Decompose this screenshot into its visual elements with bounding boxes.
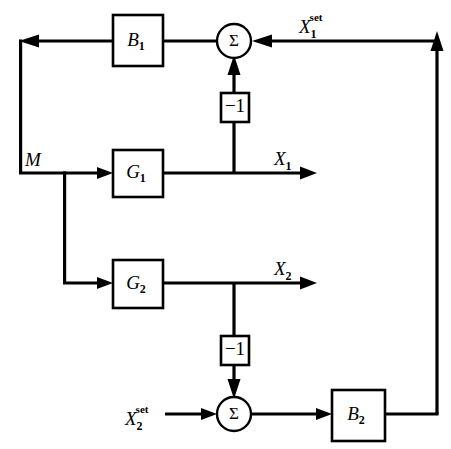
arrowhead-into-sum-bottom	[201, 408, 217, 420]
arrowhead-into-g2	[97, 277, 113, 289]
arrowhead-into-g1	[97, 167, 113, 179]
summing-junction-top-label: Σ	[229, 31, 239, 50]
block-gain-top-label: −1	[225, 95, 245, 116]
arrowhead-into-b2	[316, 408, 332, 420]
block-diagram-canvas: B1 G1 G2 B2 −1 −1 Σ Σ M X1 X2 X1set X2se…	[0, 0, 451, 449]
arrowhead-into-sum-top	[252, 35, 272, 48]
signal-label-x1-set: X1set	[298, 11, 323, 41]
arrowhead-x2-output	[300, 277, 317, 290]
signal-label-m: M	[24, 149, 42, 170]
arrowhead-x1-output	[300, 167, 317, 180]
block-gain-bottom-label: −1	[225, 338, 245, 359]
signal-label-x2-set: X2set	[124, 403, 149, 433]
control-block-diagram: B1 G1 G2 B2 −1 −1 Σ Σ M X1 X2 X1set X2se…	[0, 0, 451, 449]
summing-junction-bottom-label: Σ	[229, 404, 239, 423]
signal-label-x1: X1	[273, 148, 292, 173]
signal-label-x2: X2	[273, 258, 292, 283]
